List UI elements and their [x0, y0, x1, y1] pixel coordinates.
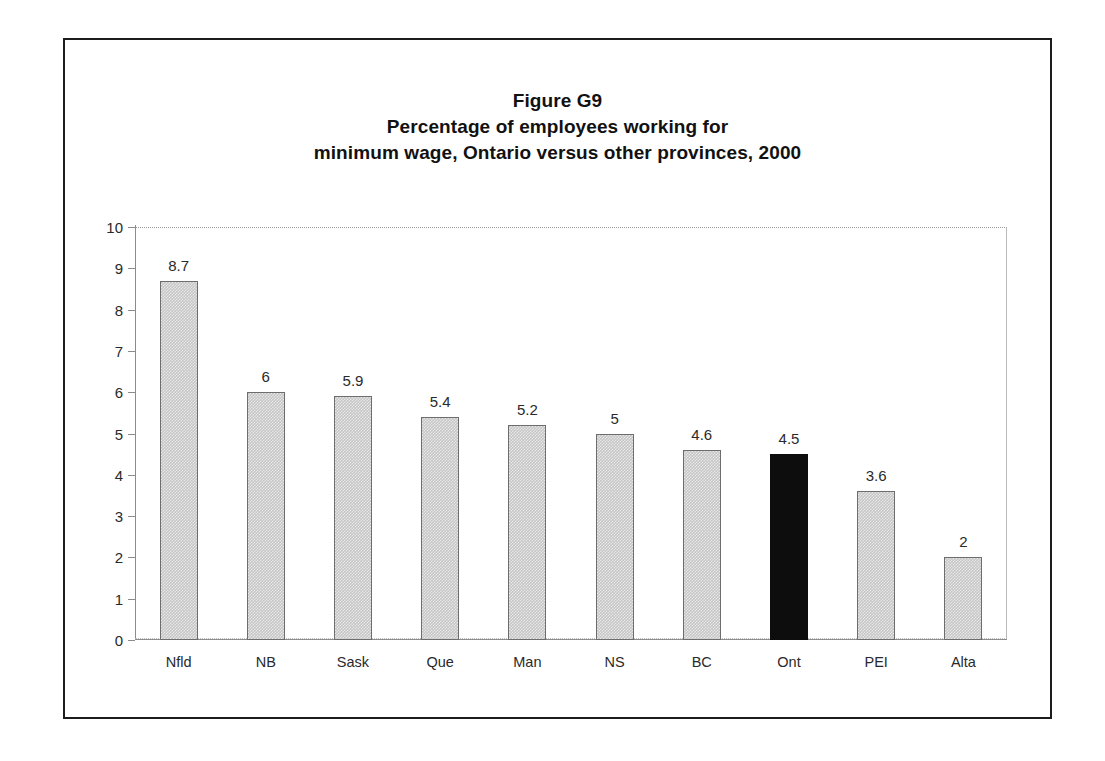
y-axis-tick-label: 10	[106, 219, 123, 236]
bar-group[interactable]: 3.6PEI	[833, 227, 920, 640]
bar-nb[interactable]	[247, 392, 285, 640]
x-axis-label-ns: NS	[605, 654, 625, 670]
bar-group[interactable]: 6NB	[222, 227, 309, 640]
bar-value-label: 5.4	[430, 393, 451, 410]
y-axis-tick-mark	[128, 516, 135, 517]
y-axis-tick-label: 4	[115, 466, 123, 483]
y-axis-tick-mark	[128, 351, 135, 352]
x-axis-label-que: Que	[426, 654, 453, 670]
y-axis-tick-label: 6	[115, 384, 123, 401]
bars-layer: 8.7Nfld6NB5.9Sask5.4Que5.2Man5NS4.6BC4.5…	[135, 227, 1007, 640]
y-axis-tick-label: 8	[115, 301, 123, 318]
figure-frame: Figure G9 Percentage of employees workin…	[63, 38, 1052, 719]
bar-value-label: 5.2	[517, 401, 538, 418]
y-axis-tick-mark	[128, 599, 135, 600]
x-axis-label-man: Man	[513, 654, 541, 670]
bar-value-label: 6	[262, 368, 270, 385]
plot-area: 109876543210 8.7Nfld6NB5.9Sask5.4Que5.2M…	[135, 227, 1007, 640]
bar-group[interactable]: 2Alta	[920, 227, 1007, 640]
bar-value-label: 5.9	[343, 372, 364, 389]
bar-group[interactable]: 5.2Man	[484, 227, 571, 640]
y-axis-tick-label: 1	[115, 590, 123, 607]
bar-group[interactable]: 4.6BC	[658, 227, 745, 640]
bar-group[interactable]: 8.7Nfld	[135, 227, 222, 640]
bar-sask[interactable]	[334, 396, 372, 640]
bar-value-label: 2	[959, 533, 967, 550]
bar-value-label: 8.7	[168, 257, 189, 274]
bar-group[interactable]: 5.4Que	[397, 227, 484, 640]
y-axis-tick-mark	[128, 227, 135, 228]
y-axis-tick-label: 3	[115, 508, 123, 525]
y-axis-tick-label: 9	[115, 260, 123, 277]
bar-alta[interactable]	[944, 557, 982, 640]
y-axis-tick-mark	[128, 475, 135, 476]
y-axis-tick-mark	[128, 268, 135, 269]
x-axis-label-sask: Sask	[337, 654, 369, 670]
bar-que[interactable]	[421, 417, 459, 640]
bar-ont[interactable]	[770, 454, 808, 640]
y-axis-tick-mark	[128, 310, 135, 311]
y-axis-tick-label: 2	[115, 549, 123, 566]
title-line-1: Figure G9	[65, 88, 1050, 114]
x-axis-label-alta: Alta	[951, 654, 976, 670]
bar-nfld[interactable]	[160, 281, 198, 640]
figure-title: Figure G9 Percentage of employees workin…	[65, 88, 1050, 166]
bar-value-label: 4.6	[691, 426, 712, 443]
y-axis-tick-mark	[128, 640, 135, 641]
bar-group[interactable]: 5NS	[571, 227, 658, 640]
y-axis-tick-label: 5	[115, 425, 123, 442]
title-line-3: minimum wage, Ontario versus other provi…	[65, 140, 1050, 166]
bar-group[interactable]: 4.5Ont	[745, 227, 832, 640]
x-axis-label-nfld: Nfld	[166, 654, 192, 670]
y-axis-tick-label: 7	[115, 342, 123, 359]
x-axis-label-nb: NB	[256, 654, 276, 670]
bar-man[interactable]	[508, 425, 546, 640]
y-axis-tick-mark	[128, 392, 135, 393]
y-axis-tick-mark	[128, 434, 135, 435]
bar-bc[interactable]	[683, 450, 721, 640]
bar-value-label: 3.6	[866, 467, 887, 484]
bar-value-label: 4.5	[779, 430, 800, 447]
bar-group[interactable]: 5.9Sask	[309, 227, 396, 640]
bar-value-label: 5	[610, 410, 618, 427]
bar-ns[interactable]	[596, 434, 634, 641]
bar-pei[interactable]	[857, 491, 895, 640]
y-axis-tick-label: 0	[115, 632, 123, 649]
y-axis-tick-mark	[128, 557, 135, 558]
title-line-2: Percentage of employees working for	[65, 114, 1050, 140]
x-axis-label-bc: BC	[692, 654, 712, 670]
x-axis-label-pei: PEI	[865, 654, 888, 670]
x-axis-label-ont: Ont	[777, 654, 800, 670]
